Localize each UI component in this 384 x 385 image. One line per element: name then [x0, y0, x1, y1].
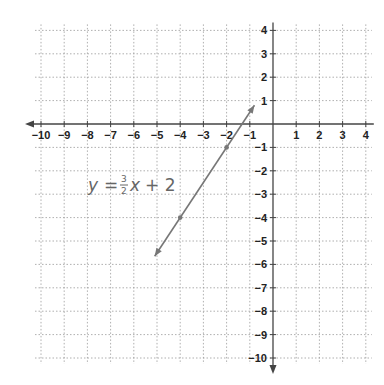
data-point — [224, 145, 229, 150]
y-tick-label: 1 — [261, 95, 267, 107]
equation-y: y — [87, 175, 99, 195]
x-tick-label: 3 — [340, 129, 346, 141]
y-tick-label: −9 — [254, 329, 267, 341]
y-tick-label: −3 — [254, 188, 267, 200]
coordinate-plane: −10−9−8−7−6−5−4−3−2−112344321−1−2−3−4−5−… — [0, 0, 384, 385]
x-tick-label: 4 — [363, 129, 370, 141]
grid-lines — [35, 24, 372, 364]
x-tick-label: −6 — [128, 129, 141, 141]
x-axis-arrow-icon — [25, 121, 34, 128]
y-tick-label: 4 — [261, 24, 268, 36]
equation-plus-two: + 2 — [145, 175, 175, 195]
y-tick-label: 2 — [261, 71, 267, 83]
x-tick-label: −7 — [104, 129, 117, 141]
y-tick-label: −7 — [254, 282, 267, 294]
x-tick-label: 1 — [293, 129, 299, 141]
x-tick-label: −5 — [151, 129, 164, 141]
x-tick-label: −4 — [174, 129, 187, 141]
axes — [25, 22, 374, 374]
y-tick-label: −5 — [254, 235, 267, 247]
x-tick-label: −1 — [244, 129, 257, 141]
x-tick-label: −3 — [197, 129, 210, 141]
y-tick-label: 3 — [261, 48, 267, 60]
y-tick-label: −1 — [254, 141, 267, 153]
x-tick-label: 2 — [316, 129, 322, 141]
data-point — [178, 215, 183, 220]
y-axis-arrow-icon — [270, 365, 277, 374]
line-arrow-down-icon — [155, 248, 162, 256]
x-tick-label: −2 — [220, 129, 233, 141]
x-tick-label: −10 — [32, 129, 51, 141]
fraction-denominator: 2 — [121, 186, 127, 196]
equation-x: x — [129, 175, 141, 195]
equation-equals: = — [104, 175, 118, 195]
y-tick-label: −8 — [254, 305, 267, 317]
equation-label: y = 3 2 x + 2 — [87, 174, 175, 196]
x-tick-label: −9 — [58, 129, 71, 141]
y-tick-label: −2 — [254, 165, 267, 177]
y-tick-label: −4 — [254, 212, 267, 224]
fraction-numerator: 3 — [121, 174, 127, 184]
y-tick-label: −6 — [254, 258, 267, 270]
y-tick-label: −10 — [248, 352, 267, 364]
line-arrow-up-icon — [247, 105, 254, 113]
x-tick-label: −8 — [81, 129, 94, 141]
